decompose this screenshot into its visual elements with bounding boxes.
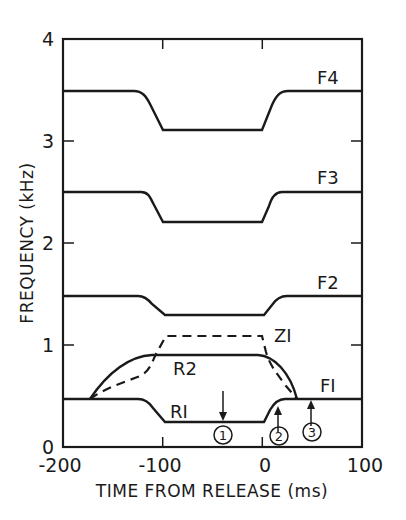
f4-curve [63,91,362,130]
label-f4: F4 [317,67,339,88]
y-tick-1: 1 [42,334,54,356]
marker-3-label: 3 [308,425,316,440]
x-axis-title: TIME FROM RELEASE (ms) [95,481,328,501]
plot-frame [63,39,362,447]
label-f2: F2 [317,272,339,293]
y-tick-4: 4 [42,28,54,50]
f2-curve [63,296,362,315]
f3-curve [63,192,362,222]
label-r1: RI [170,401,188,422]
y-tick-3: 3 [42,130,54,152]
marker-arrows [219,391,315,432]
y-axis-title: FREQUENCY (kHz) [17,162,37,323]
ticks [63,39,362,447]
x-tick-minus100: -100 [138,454,181,476]
formant-chart: 0 1 2 3 4 -200 -100 0 100 TIME FROM RELE… [0,0,406,520]
x-tick-minus200: -200 [38,454,81,476]
f1-r1-curve [63,399,362,422]
y-tick-2: 2 [42,232,54,254]
label-f1: FI [320,375,336,396]
marker-2-label: 2 [275,429,283,444]
label-f3: F3 [317,167,339,188]
marker-2: 2 [270,427,288,445]
x-tick-0: 0 [259,454,271,476]
x-tick-100: 100 [347,454,383,476]
marker-1: 1 [214,426,232,444]
label-z1: ZI [274,325,292,346]
marker-3: 3 [303,423,321,441]
marker-1-label: 1 [219,428,227,443]
label-r2: R2 [173,358,197,379]
